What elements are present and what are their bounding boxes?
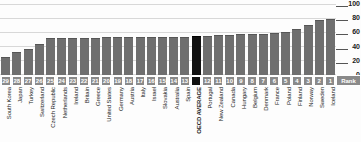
rank-badge: 8 xyxy=(247,76,257,86)
bar-slot xyxy=(269,4,280,75)
rank-badge: 4 xyxy=(292,76,302,86)
rank-slot: 18 xyxy=(123,75,134,86)
rank-slot: 14 xyxy=(168,75,179,86)
bar-slot xyxy=(291,4,302,75)
rank-slot: 19 xyxy=(112,75,123,86)
bar-slot xyxy=(314,4,325,75)
rank-slot: 24 xyxy=(56,75,67,86)
rank-badge: 20 xyxy=(101,76,111,86)
label-slot: OECD AVERAGE xyxy=(190,87,201,142)
rank-slot: 26 xyxy=(34,75,45,86)
y-tick-label: 100 xyxy=(348,0,360,7)
rank-badge: 18 xyxy=(124,76,134,86)
bar xyxy=(12,52,21,75)
bar xyxy=(91,38,100,75)
bar xyxy=(326,19,335,75)
bar xyxy=(68,38,77,75)
rank-badge: 15 xyxy=(157,76,167,86)
bar-slot xyxy=(190,4,201,75)
rank-badge: 21 xyxy=(90,76,100,86)
bar-slot xyxy=(280,4,291,75)
label-slot: Britain xyxy=(78,87,89,142)
rank-slot: 22 xyxy=(78,75,89,86)
bar-slot xyxy=(45,4,56,75)
bar-slot xyxy=(0,4,11,75)
bar-slot xyxy=(146,4,157,75)
label-slot: Germany xyxy=(112,87,123,142)
rank-badge: 14 xyxy=(169,76,179,86)
bar xyxy=(304,25,313,75)
rank-slot: 8 xyxy=(246,75,257,86)
label-slot: Czech Republic xyxy=(45,87,56,142)
label-slot: Canada xyxy=(224,87,235,142)
label-slot: Netherlands xyxy=(56,87,67,142)
rank-badge: 23 xyxy=(68,76,78,86)
bar-slot xyxy=(168,4,179,75)
bar-slot xyxy=(224,4,235,75)
rank-slot: 11 xyxy=(213,75,224,86)
rank-slot: 27 xyxy=(22,75,33,86)
bar-slot xyxy=(258,4,269,75)
rank-row: 2928272625242322212019181716151413121110… xyxy=(0,75,336,86)
bar xyxy=(57,38,66,75)
bar xyxy=(113,37,122,75)
bar-slot xyxy=(302,4,313,75)
bar-slot xyxy=(123,4,134,75)
bar-slot xyxy=(34,4,45,75)
y-axis: 100806040200 xyxy=(336,4,361,75)
bar xyxy=(225,35,234,75)
rank-slot: 23 xyxy=(67,75,78,86)
label-slot: Italy xyxy=(134,87,145,142)
rank-badge: 2 xyxy=(314,76,324,86)
rank-badge: 10 xyxy=(225,76,235,86)
label-slot: South Korea xyxy=(0,87,11,142)
label-slot: Turkey xyxy=(22,87,33,142)
label-slot: France xyxy=(269,87,280,142)
label-slot: Hungary xyxy=(235,87,246,142)
bar-slot xyxy=(202,4,213,75)
rank-slot: 17 xyxy=(134,75,145,86)
bar xyxy=(281,32,290,75)
bar-slot xyxy=(134,4,145,75)
bar xyxy=(292,29,301,75)
y-tick-100: 100 xyxy=(336,0,361,8)
bar xyxy=(147,37,156,75)
rank-slot: 21 xyxy=(90,75,101,86)
rank-slot: 29 xyxy=(0,75,11,86)
rank-slot: 12 xyxy=(202,75,213,86)
y-tick-rule xyxy=(336,34,348,35)
y-tick-label: 80 xyxy=(352,14,360,21)
rank-slot: 1 xyxy=(325,75,336,86)
bar-chart: 100806040200 292827262524232221201918171… xyxy=(0,0,361,142)
category-labels: South KoreaJapanTurkeySwitzerlandCzech R… xyxy=(0,87,336,142)
bar xyxy=(214,35,223,75)
bar-slot xyxy=(112,4,123,75)
rank-slot: 16 xyxy=(146,75,157,86)
rank-slot: 13 xyxy=(179,75,190,86)
bar xyxy=(80,38,89,75)
rank-slot: 9 xyxy=(235,75,246,86)
bar xyxy=(248,34,257,75)
label-slot: Australia xyxy=(168,87,179,142)
y-tick-rule xyxy=(336,20,348,21)
label-slot: Iceland xyxy=(325,87,336,142)
rank-slot: 10 xyxy=(224,75,235,86)
bar-slot xyxy=(11,4,22,75)
y-tick-label: 60 xyxy=(352,28,360,35)
bar xyxy=(1,57,10,75)
label-slot: Israel xyxy=(146,87,157,142)
bar-slot xyxy=(325,4,336,75)
rank-slot: 6 xyxy=(269,75,280,86)
rank-slot: 5 xyxy=(280,75,291,86)
rank-badge: 17 xyxy=(135,76,145,86)
label-slot: Poland xyxy=(280,87,291,142)
y-tick-rule xyxy=(336,63,348,64)
bar xyxy=(203,36,212,75)
label-slot: Ireland xyxy=(67,87,78,142)
label-slot: Japan xyxy=(11,87,22,142)
bar xyxy=(259,34,268,75)
bar-slot xyxy=(67,4,78,75)
bar-slot xyxy=(22,4,33,75)
bar xyxy=(35,44,44,75)
rank-badge: 19 xyxy=(113,76,123,86)
